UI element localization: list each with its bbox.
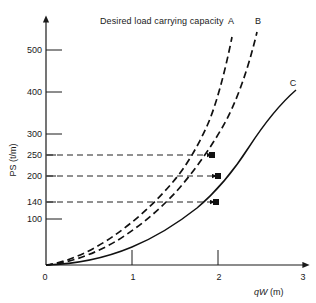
y-tick-label-250: 250 bbox=[27, 150, 42, 160]
curve-labels-group: A B C bbox=[228, 16, 297, 88]
x-tick-label-0: 0 bbox=[42, 272, 47, 282]
curve-label-a: A bbox=[228, 16, 234, 26]
series-group bbox=[46, 32, 296, 265]
data-marker-b-200 bbox=[215, 173, 221, 179]
data-marker-a-250 bbox=[209, 152, 215, 158]
y-tick-label-140: 140 bbox=[27, 197, 42, 207]
x-axis-title-unit: (m) bbox=[270, 287, 284, 297]
x-axis-title: q W (m) bbox=[254, 287, 284, 297]
y-axis-tick-labels: 500 400 300 250 200 140 100 bbox=[27, 45, 42, 224]
y-axis-ticks bbox=[46, 50, 62, 219]
data-marker-c-140 bbox=[213, 199, 219, 205]
chart-title: Desired load carrying capacity bbox=[100, 16, 224, 26]
x-tick-label-2: 2 bbox=[216, 272, 221, 282]
x-axis-tick-labels: 0 1 2 3 bbox=[42, 272, 305, 282]
chart-canvas: 500 400 300 250 200 140 100 0 1 2 3 PS (… bbox=[0, 0, 316, 303]
markers-group bbox=[209, 152, 221, 205]
x-tick-label-1: 1 bbox=[130, 272, 135, 282]
x-axis-title-w: W bbox=[259, 287, 269, 297]
curve-label-b: B bbox=[255, 16, 261, 26]
series-curve-c bbox=[46, 90, 296, 265]
axes-group bbox=[46, 22, 303, 265]
curve-label-c: C bbox=[290, 78, 297, 88]
y-tick-label-300: 300 bbox=[27, 129, 42, 139]
chart-container: 500 400 300 250 200 140 100 0 1 2 3 PS (… bbox=[0, 0, 316, 303]
series-curve-b bbox=[46, 32, 257, 265]
leader-lines-group bbox=[47, 155, 215, 202]
series-curve-a bbox=[46, 37, 232, 265]
x-tick-label-3: 3 bbox=[300, 272, 305, 282]
y-tick-label-400: 400 bbox=[27, 87, 42, 97]
y-axis-title: PS (t/m) bbox=[8, 143, 18, 176]
y-tick-label-200: 200 bbox=[27, 171, 42, 181]
x-axis-ticks bbox=[132, 250, 218, 265]
y-tick-label-100: 100 bbox=[27, 214, 42, 224]
y-tick-label-500: 500 bbox=[27, 45, 42, 55]
